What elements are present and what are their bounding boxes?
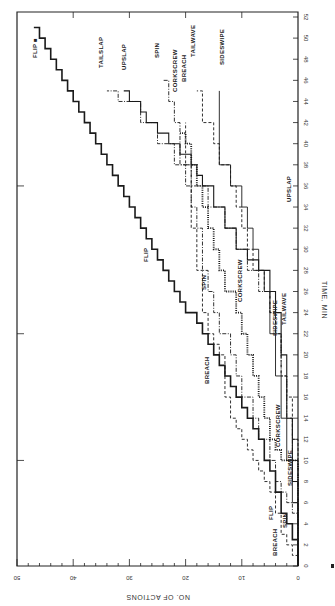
time-tick-label: 44: [303, 98, 309, 105]
actions-tick-label: 20: [182, 575, 189, 581]
actions-tick-label: 50: [13, 575, 20, 581]
label-spin-mid: SPIN: [201, 275, 207, 290]
label-tailslap-end: TAILSLAP: [98, 37, 104, 68]
time-tick-label: 50: [303, 35, 309, 42]
time-tick-label: 2: [303, 543, 309, 547]
cumulative-actions-chart: 0246810121416182022242628303234363840424…: [0, 0, 335, 606]
label-upslap-mid: UPSLAP: [286, 176, 292, 202]
time-tick-label: 26: [303, 288, 309, 295]
actions-tick-label: 10: [238, 575, 245, 581]
time-tick-label: 42: [303, 119, 309, 126]
time-tick-label: 20: [303, 352, 309, 359]
time-tick-label: 14: [303, 415, 309, 422]
actions-tick-label: 30: [125, 575, 132, 581]
time-tick-label: 6: [303, 501, 309, 505]
series-line-tailwave: [197, 91, 298, 566]
time-tick-label: 36: [303, 183, 309, 190]
actions-tick-label: 0: [296, 575, 300, 581]
label-breach-end: BREACH: [181, 55, 187, 82]
time-tick-label: 46: [303, 77, 309, 84]
series-labels: FLIP ■TAILSLAPUPSLAPSPINCORKSCREWBREACHT…: [32, 25, 293, 556]
label-spin-early: SPIN: [282, 513, 288, 528]
label-corkscrew-end: CORKSCREW: [172, 49, 178, 92]
corner-mark: [331, 564, 334, 568]
time-tick-label: 16: [303, 394, 309, 401]
plot-border: [17, 12, 298, 566]
x-axis-title: TIME, MIN: [321, 281, 328, 319]
label-tailwave-end: TAILWAVE: [190, 25, 196, 57]
time-tick-label: 0: [303, 564, 309, 568]
series-line-flip: [34, 28, 298, 566]
time-tick-label: 22: [303, 330, 309, 337]
label-sideswipe-early: SIDESWIPE: [287, 450, 293, 486]
time-tick-label: 28: [303, 267, 309, 274]
series-line-sideswipe: [219, 91, 298, 566]
axis-ticks: 0246810121416182022242628303234363840424…: [13, 12, 309, 581]
actions-tick-label: 40: [69, 575, 76, 581]
series-group: [34, 28, 298, 566]
time-tick-label: 52: [303, 14, 309, 21]
time-tick-label: 4: [303, 522, 309, 526]
time-tick-label: 10: [303, 457, 309, 464]
label-flip-end: FLIP ■: [32, 38, 38, 58]
label-flip-early: FLIP: [268, 506, 274, 520]
label-breach-mid: BREACH: [204, 357, 210, 384]
label-spin-end: SPIN: [154, 43, 160, 58]
time-tick-label: 32: [303, 225, 309, 232]
label-tailwave-mid: TAILWAVE: [281, 293, 287, 325]
time-tick-label: 30: [303, 246, 309, 253]
label-corkscrew-early: CORKSCREW: [275, 404, 281, 447]
time-tick-label: 24: [303, 309, 309, 316]
label-sideswipe-mid: SIDESWIPE: [272, 300, 278, 336]
time-tick-label: 18: [303, 373, 309, 380]
time-tick-label: 38: [303, 161, 309, 168]
label-breach-early: BREACH: [272, 529, 278, 556]
label-sideswipe-end: SIDESWIPE: [219, 29, 225, 65]
plot-frame: [17, 12, 298, 566]
time-tick-label: 34: [303, 204, 309, 211]
time-tick-label: 8: [303, 480, 309, 484]
series-line-corkscrew: [180, 133, 298, 566]
time-tick-label: 48: [303, 56, 309, 63]
y-axis-title: NO. OF ACTIONS: [126, 594, 190, 601]
label-upslap-end: UPSLAP: [121, 44, 127, 70]
label-flip-mid: FLIP: [143, 248, 149, 262]
time-tick-label: 12: [303, 436, 309, 443]
label-corkscrew-mid: CORKSCREW: [237, 259, 243, 302]
time-tick-label: 40: [303, 140, 309, 147]
